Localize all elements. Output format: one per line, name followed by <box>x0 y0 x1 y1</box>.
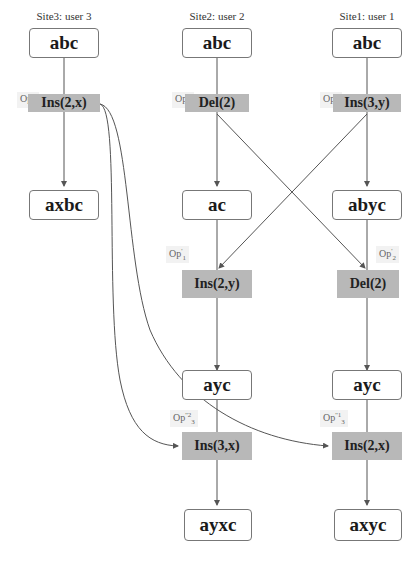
state-site2-ayc: ayc <box>182 370 252 400</box>
state-site1-final: axyc <box>334 509 402 541</box>
site2-label: Site2: user 2 <box>190 10 245 22</box>
site3-label: Site3: user 3 <box>37 10 92 22</box>
op3-dprime-site2-box: Ins(3,x) <box>182 432 252 460</box>
op1-prime-box: Ins(2,y) <box>182 270 252 298</box>
op3-dprime-site1-tag: Op''13 <box>320 410 348 427</box>
op1-box: Ins(3,y) <box>333 94 401 112</box>
state-site3-initial: abc <box>29 28 99 58</box>
op2-prime-tag: Op'2 <box>376 246 399 263</box>
state-site1-ayc: ayc <box>332 370 402 400</box>
state-site2-ac: ac <box>182 190 252 220</box>
op3-dprime-site1-box: Ins(2,x) <box>332 432 402 460</box>
state-site1-abyc: abyc <box>332 190 402 220</box>
state-site1-initial: abc <box>332 28 402 58</box>
state-site2-final: ayxc <box>184 509 252 541</box>
op2-prime-box: Del(2) <box>337 270 399 298</box>
op1-prime-tag: Op'1 <box>166 246 189 263</box>
op2-box: Del(2) <box>185 94 249 112</box>
op3-box: Ins(2,x) <box>28 94 100 112</box>
state-site3-axbc: axbc <box>29 190 99 220</box>
site1-label: Site1: user 1 <box>340 10 395 22</box>
state-site2-initial: abc <box>182 28 252 58</box>
op3-dprime-site2-tag: Op''23 <box>170 410 198 427</box>
